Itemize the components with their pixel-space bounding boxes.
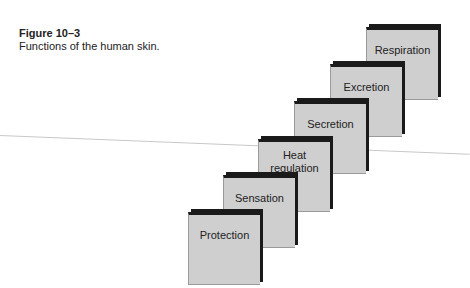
step-label: Heat regulation [259,149,330,175]
step-protection: Protection [188,212,260,285]
figure-caption: Figure 10–3 Functions of the human skin. [19,27,160,53]
step-label: Secretion [295,118,366,131]
figure-title: Functions of the human skin. [19,40,160,53]
step-label: Respiration [367,44,438,57]
step-label: Sensation [224,192,295,205]
step-label: Excretion [331,81,402,94]
step-label: Protection [189,229,260,242]
figure-number: Figure 10–3 [19,27,160,40]
scan-line-divider [0,135,470,155]
